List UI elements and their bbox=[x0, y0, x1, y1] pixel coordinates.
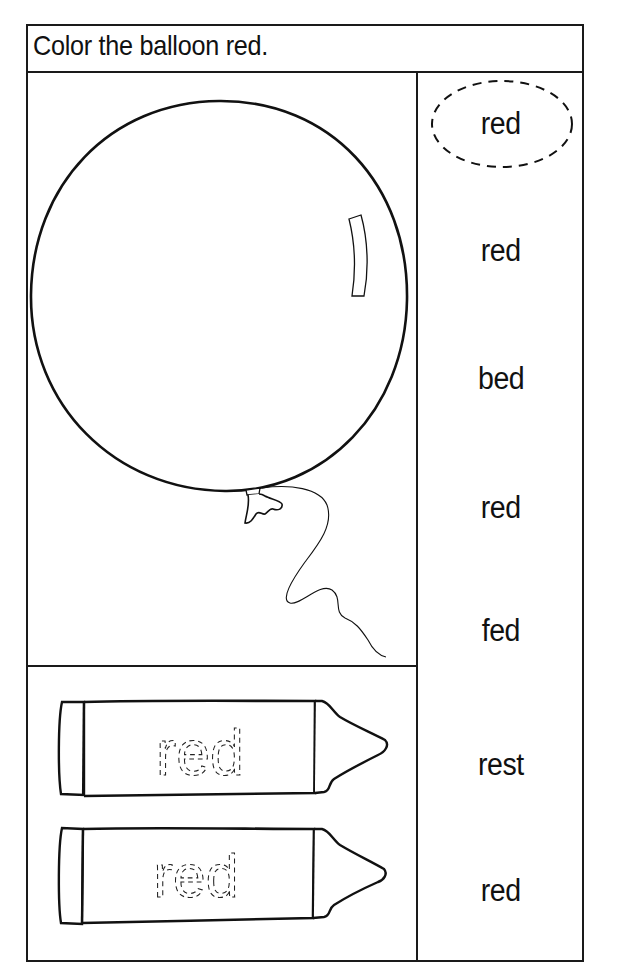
word-label: red bbox=[481, 490, 521, 526]
word-label: bed bbox=[478, 361, 524, 397]
word-label: red bbox=[481, 873, 521, 909]
word-list-item[interactable]: red bbox=[418, 233, 584, 269]
word-label: fed bbox=[482, 613, 520, 649]
word-list-item[interactable]: red bbox=[418, 873, 584, 909]
traced-words-layer: red red bbox=[0, 0, 634, 971]
word-list-item[interactable]: rest bbox=[418, 747, 584, 783]
word-label: red bbox=[481, 233, 521, 269]
word-label: red bbox=[481, 106, 521, 142]
traced-word-input[interactable]: red bbox=[153, 841, 238, 911]
word-list-item[interactable]: red bbox=[418, 106, 584, 142]
worksheet-page: Color the balloon red. bbox=[0, 0, 634, 971]
word-list-item[interactable]: fed bbox=[418, 613, 584, 649]
word-label: rest bbox=[478, 747, 524, 783]
traced-word-input[interactable]: red bbox=[156, 717, 244, 789]
word-list-item[interactable]: red bbox=[418, 490, 584, 526]
word-list-item[interactable]: bed bbox=[418, 361, 584, 397]
